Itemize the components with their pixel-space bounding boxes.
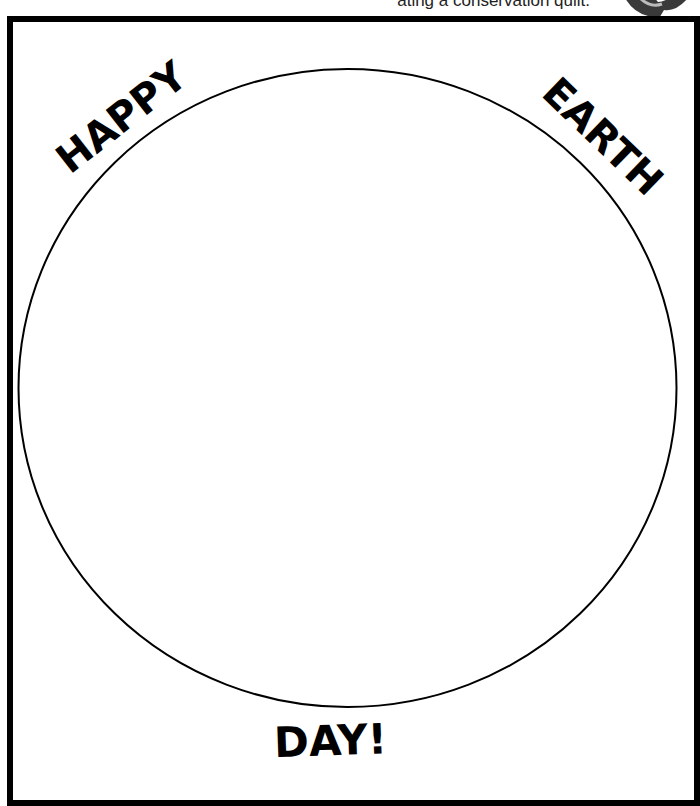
earth-word: EARTH (534, 68, 672, 204)
day-word: DAY! (273, 714, 388, 767)
drawing-circle[interactable] (19, 69, 677, 707)
svg-text:DAY!: DAY! (273, 714, 388, 767)
day-text: DAY! (273, 714, 388, 767)
earth-text: EARTH (534, 68, 672, 204)
svg-text:EARTH: EARTH (534, 68, 672, 204)
